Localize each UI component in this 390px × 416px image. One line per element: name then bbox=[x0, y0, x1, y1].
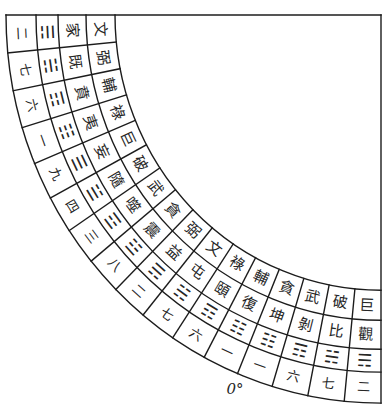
number-label: 九 bbox=[46, 165, 65, 183]
hexagram-label: 益 bbox=[162, 240, 185, 263]
hexagram-label: 隨 bbox=[104, 168, 127, 190]
hexagram-label: 觀 bbox=[358, 325, 374, 344]
number-label: 三 bbox=[82, 227, 102, 246]
hexagram-label: 夷 bbox=[79, 113, 101, 133]
number-label: 二 bbox=[129, 281, 149, 301]
trigram-zhen-icon: ☳ bbox=[121, 235, 146, 260]
hexagram-label: 震 bbox=[140, 218, 163, 241]
hexagram-label: 坤 bbox=[267, 305, 287, 327]
trigram-kan-icon: ☵ bbox=[323, 346, 341, 368]
hexagram-label: 家 bbox=[63, 23, 82, 39]
hexagram-label: 復 bbox=[238, 293, 259, 316]
number-label: 二 bbox=[14, 26, 30, 40]
star-label: 巨 bbox=[359, 296, 375, 315]
trigram-xun-icon: ☴ bbox=[37, 24, 58, 40]
star-label: 祿 bbox=[226, 252, 248, 275]
star-label: 文 bbox=[91, 21, 110, 37]
number-label: 八 bbox=[104, 255, 124, 275]
hexagram-label: 頤 bbox=[211, 278, 233, 301]
trigram-kan-icon: ☵ bbox=[40, 57, 62, 75]
trigram-gen-icon: ☶ bbox=[45, 89, 68, 109]
number-label: 一 bbox=[33, 132, 52, 149]
number-label: 一 bbox=[251, 357, 268, 376]
star-label: 貪 bbox=[161, 198, 184, 221]
hexagram-label: 比 bbox=[327, 321, 344, 341]
trigram-li-icon: ☲ bbox=[100, 209, 125, 233]
hexagram-label: 噬 bbox=[121, 194, 144, 217]
trigram-gen-icon: ☶ bbox=[290, 339, 310, 362]
hexagram-label: 妄 bbox=[90, 141, 113, 162]
number-label: 二 bbox=[356, 379, 370, 395]
trigram-xun-icon: ☴ bbox=[144, 259, 169, 284]
hexagram-label: 屯 bbox=[186, 260, 209, 283]
hexagram-label: 既 bbox=[65, 53, 85, 70]
star-label: 破 bbox=[129, 153, 152, 175]
number-label: 六 bbox=[285, 368, 301, 386]
zero-degree-label: 0° bbox=[226, 380, 243, 398]
hexagram-label: 賁 bbox=[71, 83, 92, 102]
star-label: 弼 bbox=[181, 218, 204, 241]
hexagram-label: 剝 bbox=[296, 315, 315, 336]
number-label: 七 bbox=[157, 304, 176, 324]
star-label: 祿 bbox=[106, 103, 128, 123]
trigram-xun-icon: ☴ bbox=[356, 350, 372, 371]
number-label: 一 bbox=[218, 342, 236, 361]
trigram-kan-icon: ☵ bbox=[170, 280, 194, 305]
star-label: 輔 bbox=[98, 76, 119, 95]
number-label: 六 bbox=[23, 97, 41, 113]
ring-grid bbox=[6, 15, 381, 403]
number-label: 四 bbox=[62, 197, 82, 216]
star-label: 輔 bbox=[250, 266, 271, 289]
star-label: 武 bbox=[144, 177, 167, 200]
quarter-ring-hexagram-diagram: 0° 文弼輔祿巨破武貪弼文祿輔貪武破巨家既賁夷妄隨噬震益屯頤復坤剝比觀☴☵☶☷☰… bbox=[0, 0, 390, 416]
star-label: 文 bbox=[203, 237, 226, 260]
star-label: 破 bbox=[331, 292, 348, 312]
trigram-kun-icon: ☷ bbox=[258, 329, 279, 353]
star-label: 武 bbox=[303, 286, 322, 307]
star-label: 巨 bbox=[116, 128, 139, 149]
number-label: 六 bbox=[186, 325, 205, 345]
number-label: 七 bbox=[17, 62, 34, 77]
number-label: 七 bbox=[321, 375, 336, 392]
star-label: 弼 bbox=[93, 49, 113, 66]
star-label: 貪 bbox=[276, 277, 296, 299]
